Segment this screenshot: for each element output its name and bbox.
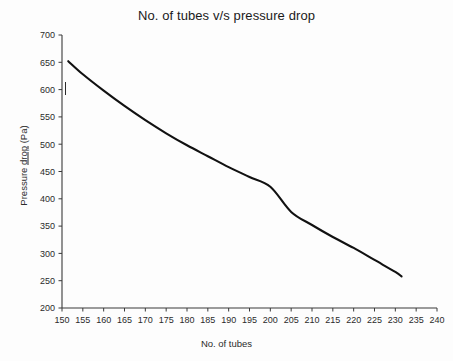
data-series-line (68, 61, 401, 276)
y-axis-title-after: (Pa) (18, 125, 29, 146)
y-tick-label: 200 (40, 303, 55, 313)
y-axis-title: Pressure drop (Pa) (18, 101, 29, 231)
y-tick-label: 500 (40, 140, 55, 150)
y-axis: 200250300350400450500550600650700 (40, 30, 62, 313)
y-axis-title-underlined: drop (18, 146, 29, 165)
y-tick-label: 650 (40, 58, 55, 68)
y-tick-label: 550 (40, 112, 55, 122)
x-tick-label: 195 (242, 315, 257, 325)
x-tick-label: 190 (221, 315, 236, 325)
x-tick-label: 160 (96, 315, 111, 325)
plot-area: 200250300350400450500550600650700 150155… (0, 0, 453, 361)
y-tick-label: 350 (40, 221, 55, 231)
y-tick-label: 700 (40, 30, 55, 40)
x-tick-label: 185 (200, 315, 215, 325)
x-tick-label: 230 (388, 315, 403, 325)
chart-container: No. of tubes v/s pressure drop 200250300… (0, 0, 453, 361)
x-axis: 1501551601651701751801851901952002052102… (54, 308, 444, 325)
y-tick-label: 250 (40, 276, 55, 286)
x-tick-label: 155 (75, 315, 90, 325)
x-tick-label: 235 (409, 315, 424, 325)
x-axis-title: No. of tubes (0, 338, 453, 349)
x-tick-label: 175 (159, 315, 174, 325)
x-tick-label: 215 (325, 315, 340, 325)
pressure-drop-curve (68, 61, 401, 276)
x-tick-label: 180 (179, 315, 194, 325)
x-tick-label: 200 (263, 315, 278, 325)
x-tick-label: 165 (117, 315, 132, 325)
y-tick-label: 600 (40, 85, 55, 95)
x-tick-label: 205 (284, 315, 299, 325)
y-tick-label: 400 (40, 194, 55, 204)
x-tick-label: 240 (429, 315, 444, 325)
x-tick-label: 170 (138, 315, 153, 325)
y-tick-label: 300 (40, 249, 55, 259)
x-tick-label: 210 (304, 315, 319, 325)
y-axis-title-before: Pressure (18, 165, 29, 206)
x-tick-label: 220 (346, 315, 361, 325)
y-tick-label: 450 (40, 167, 55, 177)
text-cursor-artifact (65, 82, 66, 95)
x-tick-label: 225 (367, 315, 382, 325)
x-tick-label: 150 (54, 315, 69, 325)
